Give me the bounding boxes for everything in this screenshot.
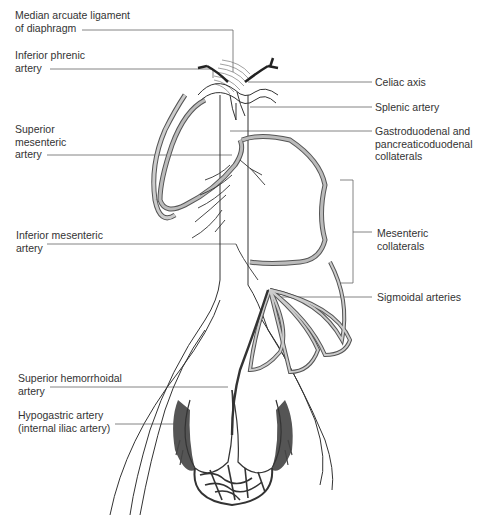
label-line: pancreaticoduodenal <box>375 138 473 151</box>
label-line: Inferior phrenic <box>15 49 85 62</box>
label-line: Mesenteric <box>377 227 428 240</box>
label-superior-hemorrhoidal-artery: Superior hemorrhoidal artery <box>18 372 122 397</box>
sigmoidal-arteries <box>250 262 350 372</box>
label-line: mesenteric <box>15 136 66 149</box>
label-hypogastric-artery: Hypogastric artery (internal iliac arter… <box>18 409 110 434</box>
label-line: Splenic artery <box>375 101 439 114</box>
arterial-anatomy-diagram: Median arcuate ligament of diaphragm Inf… <box>0 0 483 515</box>
label-line: Celiac axis <box>375 76 426 89</box>
label-line: artery <box>18 385 122 398</box>
bracket-mesenteric-collaterals <box>340 180 353 283</box>
label-median-arcuate-ligament: Median arcuate ligament of diaphragm <box>15 9 130 34</box>
label-line: Hypogastric artery <box>18 409 110 422</box>
label-line: collaterals <box>377 240 428 253</box>
label-line: Superior hemorrhoidal <box>18 372 122 385</box>
gastroduodenal-collaterals <box>154 95 325 264</box>
label-superior-mesenteric-artery: Superior mesenteric artery <box>15 123 66 161</box>
label-line: (internal iliac artery) <box>18 422 110 435</box>
leader-median-arcuate <box>82 30 233 72</box>
label-mesenteric-collaterals: Mesenteric collaterals <box>377 227 428 252</box>
median-arcuate-ligament <box>214 60 250 94</box>
label-line: of diaphragm <box>15 22 130 35</box>
label-line: artery <box>15 62 85 75</box>
rectal-plexus <box>173 390 293 505</box>
label-line: Sigmoidal arteries <box>377 291 461 304</box>
label-line: Median arcuate ligament <box>15 9 130 22</box>
label-celiac-axis: Celiac axis <box>375 76 426 89</box>
label-inferior-mesenteric-artery: Inferior mesenteric artery <box>16 229 103 254</box>
label-line: Superior <box>15 123 66 136</box>
label-splenic-artery: Splenic artery <box>375 101 439 114</box>
label-line: collaterals <box>375 150 473 163</box>
label-line: artery <box>15 148 66 161</box>
label-line: Inferior mesenteric <box>16 229 103 242</box>
label-gastroduodenal-collaterals: Gastroduodenal and pancreaticoduodenal c… <box>375 125 473 163</box>
label-line: Gastroduodenal and <box>375 125 473 138</box>
label-sigmoidal-arteries: Sigmoidal arteries <box>377 291 461 304</box>
label-inferior-phrenic-artery: Inferior phrenic artery <box>15 49 85 74</box>
inferior-phrenic-arteries <box>198 58 278 82</box>
label-line: artery <box>16 242 103 255</box>
